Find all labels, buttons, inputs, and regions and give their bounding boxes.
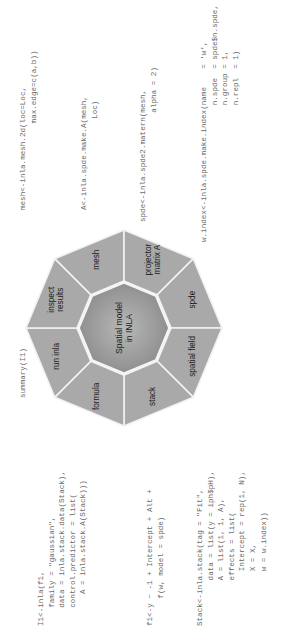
svg-text:run inla: run inla (52, 342, 61, 369)
svg-text:spatial field: spatial field (188, 335, 197, 376)
svg-text:stack: stack (148, 386, 157, 406)
rotated-figure: summary(I1) mesh<-inla.mesh.2d(loc=Loc, … (0, 0, 284, 634)
workflow-octagon: meshprojectormatrix Aspdespatial fieldst… (0, 0, 284, 634)
segment-label-spatial-field: spatial field (188, 335, 197, 376)
svg-text:results: results (56, 288, 65, 312)
segment-label-spde: spde (188, 290, 197, 308)
svg-text:Spatial model: Spatial model (114, 302, 124, 354)
segment-label-formula: formula (92, 382, 101, 410)
segment-label-run-inla: run inla (52, 342, 61, 369)
segment-label-mesh: mesh (92, 249, 101, 269)
svg-text:in INLA: in INLA (124, 314, 134, 342)
svg-text:projector: projector (144, 243, 153, 275)
segment-label-projector: projectormatrix A (144, 243, 162, 275)
svg-text:matrix A: matrix A (153, 244, 162, 274)
segment-label-inspect-results: inspectresults (47, 286, 65, 313)
segment-label-stack: stack (148, 386, 157, 406)
svg-text:mesh: mesh (92, 249, 101, 269)
svg-text:spde: spde (188, 290, 197, 308)
svg-text:formula: formula (92, 382, 101, 410)
svg-text:inspect: inspect (47, 286, 56, 313)
